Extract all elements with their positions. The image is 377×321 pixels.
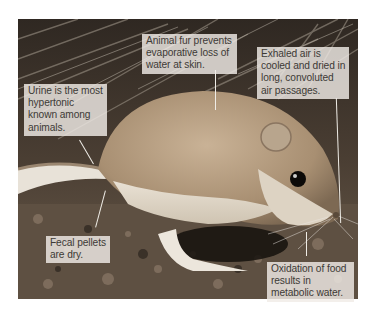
- callout-exhaled-air: Exhaled air is cooled and dried in long,…: [257, 47, 349, 99]
- callout-oxidation: Oxidation of food results in metabolic w…: [267, 262, 354, 302]
- callout-fecal-text: Fecal pellets are dry.: [50, 237, 106, 260]
- callout-oxidation-text: Oxidation of food results in metabolic w…: [271, 263, 346, 298]
- callout-fur-text: Animal fur prevents evaporative loss of …: [146, 35, 232, 70]
- callout-fur: Animal fur prevents evaporative loss of …: [142, 34, 237, 74]
- leader-line-fur: [215, 70, 216, 110]
- callout-exhaled-air-text: Exhaled air is cooled and dried in long,…: [261, 48, 345, 96]
- callout-fecal: Fecal pellets are dry.: [46, 236, 110, 263]
- callout-urine: Urine is the most hypertonic known among…: [24, 84, 107, 136]
- callout-urine-text: Urine is the most hypertonic known among…: [28, 85, 103, 133]
- leader-line-oxidation: [306, 232, 307, 256]
